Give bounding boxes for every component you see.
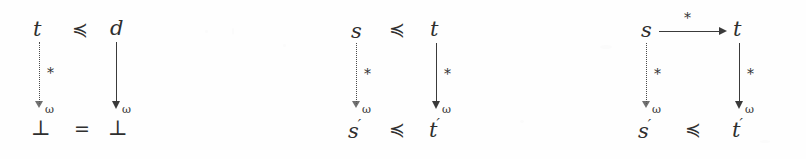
diagram-2-top-relation: ≼ <box>389 20 405 39</box>
diagram-2-bottom-right-prime: ′ <box>436 115 439 133</box>
diagram-1-right-arrow-shaft <box>116 42 117 104</box>
diagram-2-right-arrow-shaft <box>436 43 437 104</box>
diagram-2-bottom-left-term: s′ <box>348 118 361 142</box>
diagram-1-left-arrow-subscript: ω <box>45 104 54 115</box>
diagram-3-left-arrow-label: * <box>654 67 661 81</box>
diagram-3-bottom-left-prime: ′ <box>648 116 651 134</box>
diagram-1-bottom-left-term: ⊥ <box>31 118 51 139</box>
diagram-1-top-relation: ≼ <box>72 20 88 39</box>
diagram-2-bottom-relation: ≼ <box>389 120 405 139</box>
diagram-3-bottom-right-term: t′ <box>732 117 743 141</box>
diagram-3-right-arrow-subscript: ω <box>745 104 754 115</box>
diagram-3-top-arrowhead <box>719 27 727 35</box>
diagram-1-bottom-relation: = <box>74 119 90 138</box>
diagram-2: s ≼ t * ω * ω s′ ≼ t′ <box>340 0 540 159</box>
diagram-3-bottom-right-prime: ′ <box>739 115 742 133</box>
diagram-2-left-arrow-shaft <box>356 43 357 104</box>
diagram-1: t ≼ d * ω ω ⊥ = ⊥ <box>0 0 300 159</box>
diagram-1-bottom-right-term: ⊥ <box>108 118 128 139</box>
diagram-3-top-left-term: s <box>641 20 652 41</box>
diagram-1-left-arrow-label: * <box>47 66 54 80</box>
diagram-2-top-left-term: s <box>351 21 362 42</box>
diagram-3-bottom-left-term: s′ <box>638 118 651 142</box>
diagram-3-left-arrowhead <box>642 101 650 108</box>
diagram-2-left-arrowhead <box>352 101 360 108</box>
diagram-3-top-arrow-label: * <box>684 11 691 25</box>
diagram-3-top-right-term: t <box>733 19 741 40</box>
diagram-3-left-arrow-subscript: ω <box>652 104 661 115</box>
diagram-2-left-arrow-label: * <box>364 67 371 81</box>
diagram-1-left-arrowhead <box>35 101 43 108</box>
diagram-3-top-arrow-shaft <box>659 31 721 32</box>
diagram-3-right-arrowhead <box>735 101 743 109</box>
diagram-2-right-arrow-subscript: ω <box>442 104 451 115</box>
diagram-2-right-arrowhead <box>432 101 440 109</box>
diagram-1-top-left-term: t <box>33 19 41 40</box>
diagram-2-bottom-left-prime: ′ <box>358 116 361 134</box>
scan-speckle <box>600 45 612 49</box>
diagram-2-bottom-right-term: t′ <box>429 117 440 141</box>
figure-canvas: t ≼ d * ω ω ⊥ = ⊥ s ≼ t * ω * ω s′ ≼ t′ <box>0 0 806 159</box>
diagram-1-top-right-term: d <box>110 18 123 39</box>
diagram-3-right-arrow-label: * <box>747 67 754 81</box>
diagram-3-left-arrow-shaft <box>646 43 647 104</box>
diagram-1-right-arrowhead <box>112 101 120 109</box>
diagram-2-right-arrow-label: * <box>444 67 451 81</box>
diagram-3-bottom-relation: ≼ <box>685 120 701 139</box>
diagram-2-left-arrow-subscript: ω <box>362 104 371 115</box>
diagram-2-top-right-term: t <box>430 19 438 40</box>
diagram-3-right-arrow-shaft <box>739 43 740 104</box>
diagram-1-left-arrow-shaft <box>39 42 40 104</box>
diagram-3: s * t * ω * ω s′ ≼ t′ <box>630 0 806 159</box>
diagram-1-right-arrow-subscript: ω <box>122 104 131 115</box>
